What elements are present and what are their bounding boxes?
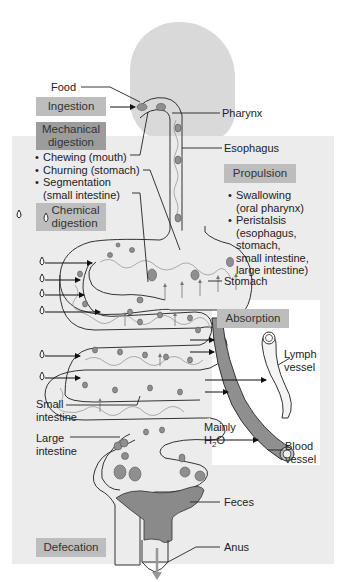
label-lymph-line2: vessel (284, 361, 317, 374)
propulsion-list: Swallowing (oral pharynx) Peristalsis (e… (228, 189, 309, 277)
label-esophagus: Esophagus (224, 142, 279, 155)
label-small-line2: intestine (36, 411, 77, 424)
box-ingestion: Ingestion (36, 97, 106, 116)
drop-icon (43, 213, 49, 222)
label-large-line1: Large (36, 432, 77, 445)
label-lymph-line1: Lymph (284, 348, 317, 361)
mechanical-item-segmentation: Segmentation (35, 176, 140, 189)
propulsion-item-swallowing: Swallowing (228, 189, 309, 202)
label-blood-vessel: Blood vessel (285, 440, 316, 465)
chemical-line2: digestion (52, 217, 100, 230)
label-small-intestine: Small intestine (36, 398, 77, 423)
label-blood-line1: Blood (285, 440, 316, 453)
chemical-line1: Chemical (52, 204, 100, 217)
box-chemical-digestion: Chemical digestion (36, 203, 106, 231)
h2o-h: H (204, 434, 212, 446)
mechanical-item-churning: Churning (stomach) (35, 164, 140, 177)
propulsion-item-swallowing-location: (oral pharynx) (228, 202, 309, 215)
box-propulsion: Propulsion (224, 164, 296, 183)
label-blood-line2: vessel (285, 453, 316, 466)
propulsion-item-peristalsis-loc2: stomach, (228, 239, 309, 252)
label-mainly: Mainly (204, 421, 236, 434)
mechanical-item-segmentation-location: (small intestine) (35, 189, 140, 202)
label-mainly-h2o: Mainly H2O (204, 421, 236, 451)
enzyme-drop-icons (17, 210, 44, 380)
box-defecation: Defecation (36, 538, 106, 557)
label-small-line1: Small (36, 398, 77, 411)
box-absorption: Absorption (217, 309, 289, 328)
h2o-o: O (216, 434, 225, 446)
propulsion-item-peristalsis-loc1: (esophagus, (228, 227, 309, 240)
mechanical-line1: Mechanical (42, 123, 100, 136)
label-anus: Anus (224, 541, 249, 554)
label-feces: Feces (224, 496, 254, 509)
lymph-vessel (262, 334, 291, 418)
propulsion-item-peristalsis-loc3: small intestine, (228, 252, 309, 265)
esophagus-tube (140, 98, 205, 244)
label-food: Food (51, 81, 76, 94)
mechanical-line2: digestion (48, 136, 94, 149)
mechanical-item-chewing: Chewing (mouth) (35, 151, 140, 164)
label-large-intestine: Large intestine (36, 432, 77, 457)
mechanical-list: Chewing (mouth) Churning (stomach) Segme… (35, 151, 140, 201)
label-large-line2: intestine (36, 445, 77, 458)
chemical-text: Chemical digestion (52, 204, 100, 230)
propulsion-item-peristalsis: Peristalsis (228, 214, 309, 227)
label-pharynx: Pharynx (222, 107, 262, 120)
propulsion-item-peristalsis-loc4: large intestine) (228, 264, 309, 277)
label-stomach: Stomach (224, 275, 267, 288)
label-lymph-vessel: Lymph vessel (284, 348, 317, 373)
label-h2o: H2O (204, 434, 236, 452)
box-mechanical-digestion: Mechanical digestion (36, 122, 106, 150)
